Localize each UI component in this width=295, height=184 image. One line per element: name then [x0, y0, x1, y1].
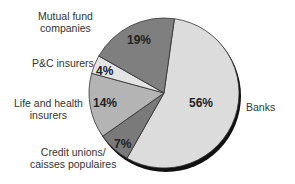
label-line: Life and health — [14, 97, 83, 109]
label-line: insurers — [14, 109, 83, 121]
percent-pc: 4% — [96, 64, 113, 78]
label-line: caisses populaires — [30, 158, 116, 170]
percent-credit-unions: 7% — [114, 137, 131, 151]
percent-mutual-fund: 19% — [127, 33, 151, 47]
percent-life-health: 14% — [93, 96, 117, 110]
label-line: Mutual fund — [38, 10, 93, 22]
percent-banks: 56% — [189, 96, 213, 110]
pie-chart: Mutual fund companies P&C insurers Life … — [0, 0, 295, 184]
label-life-health: Life and health insurers — [14, 97, 83, 121]
label-pc-insurers: P&C insurers — [32, 57, 94, 69]
label-credit-unions: Credit unions/ caisses populaires — [30, 146, 116, 170]
label-banks: Banks — [246, 101, 275, 113]
label-line: Credit unions/ — [30, 146, 116, 158]
label-mutual-fund: Mutual fund companies — [38, 10, 93, 34]
label-line: companies — [38, 22, 93, 34]
